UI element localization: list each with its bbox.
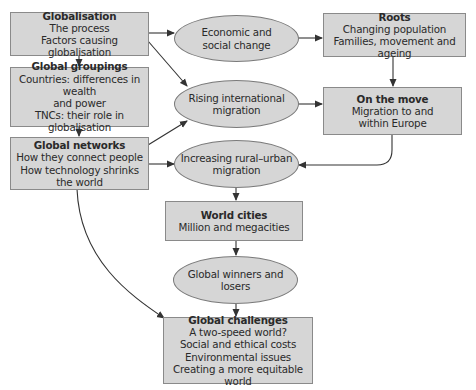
node-global-winners-losers: Global winners and losers xyxy=(173,256,298,304)
node-line: within Europe xyxy=(324,117,461,129)
node-title: Roots xyxy=(324,11,465,23)
arrow-networks-to-rising xyxy=(148,121,187,145)
node-line: Economic and xyxy=(175,26,298,39)
node-line: migration xyxy=(175,164,298,177)
node-line: Environmental issues xyxy=(164,351,312,363)
arrow-move-to-rural xyxy=(299,134,392,165)
node-line: Creating a more equitable world xyxy=(164,363,312,387)
node-line: the world xyxy=(11,176,148,188)
node-line: A two-speed world? xyxy=(164,326,312,338)
node-line: Families, movement and ageing xyxy=(324,35,465,59)
node-world-cities: World cities Million and megacities xyxy=(165,201,303,241)
node-line: Countries: differences in wealth xyxy=(11,73,148,97)
node-line: TNCs: their role in xyxy=(11,109,148,121)
node-line: How they connect people xyxy=(11,151,148,163)
node-title: Global networks xyxy=(11,139,148,151)
node-line: How technology shrinks xyxy=(11,164,148,176)
node-line: Changing population xyxy=(324,23,465,35)
node-rural-urban-migration: Increasing rural–urban migration xyxy=(174,140,299,188)
node-line: Social and ethical costs xyxy=(164,338,312,350)
node-line: Million and megacities xyxy=(166,221,302,233)
node-rising-international-migration: Rising international migration xyxy=(174,80,299,128)
node-title: World cities xyxy=(166,209,302,221)
node-title: Global groupings xyxy=(11,60,148,72)
node-globalisation: Globalisation The process Factors causin… xyxy=(10,12,149,56)
node-line: social change xyxy=(175,39,298,52)
node-line: migration xyxy=(175,104,298,117)
node-line: The process xyxy=(11,22,148,34)
node-line: Rising international xyxy=(175,92,298,105)
node-global-networks: Global networks How they connect people … xyxy=(10,137,149,190)
node-line: Global winners and losers xyxy=(174,268,297,293)
node-line: Increasing rural–urban xyxy=(175,152,298,165)
node-on-the-move: On the move Migration to and within Euro… xyxy=(323,87,462,135)
node-roots: Roots Changing population Families, move… xyxy=(323,13,466,57)
node-title: On the move xyxy=(324,93,461,105)
node-title: Global challenges xyxy=(164,314,312,326)
node-line: Migration to and xyxy=(324,105,461,117)
node-title: Globalisation xyxy=(11,10,148,22)
node-global-challenges: Global challenges A two-speed world? Soc… xyxy=(163,317,313,384)
node-line: Factors causing globalisation xyxy=(11,34,148,58)
node-global-groupings: Global groupings Countries: differences … xyxy=(10,67,149,127)
arrow-networks-to-challenges xyxy=(77,189,164,318)
node-line: and power xyxy=(11,97,148,109)
node-line: globalisation xyxy=(11,121,148,133)
node-economic-social-change: Economic and social change xyxy=(174,15,299,62)
